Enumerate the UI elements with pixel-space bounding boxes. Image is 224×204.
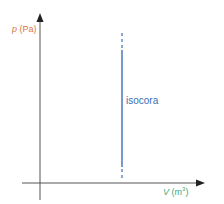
x-axis-unit-base: (m [172, 187, 183, 197]
x-axis-arrow-icon [196, 180, 205, 187]
y-axis-arrow-icon [37, 13, 44, 22]
y-axis-label: p (Pa) [12, 24, 37, 34]
x-axis-label: V (m3) [163, 187, 188, 197]
x-axis-symbol: V [163, 187, 169, 197]
y-axis-symbol: p [12, 24, 17, 34]
isochore-label: isocora [126, 95, 158, 106]
y-axis-unit: (Pa) [20, 24, 37, 34]
x-axis-unit-close: ) [185, 187, 188, 197]
